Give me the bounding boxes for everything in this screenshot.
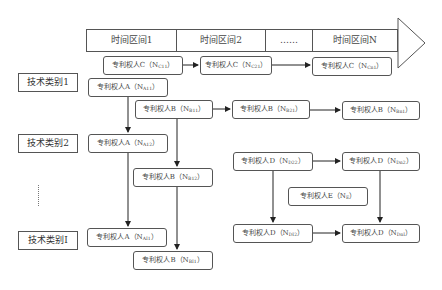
- category-1-label: 技术类别1: [18, 73, 78, 92]
- category-ellipsis: [38, 185, 39, 206]
- timeline-interval-ellipsis: ……: [266, 30, 313, 51]
- node-patentee-c-c11: 专利权人C（NC11）: [103, 56, 183, 75]
- timeline-arrowhead: [398, 18, 425, 68]
- node-patentee-b-b21: 专利权人B（NB21）: [232, 100, 310, 119]
- node-patentee-c-c21: 专利权人C（NC21）: [200, 56, 272, 75]
- node-patentee-b-b12: 专利权人B（NB12）: [133, 168, 213, 187]
- node-patentee-b-bn1: 专利权人B（NBn1）: [342, 101, 420, 120]
- node-patentee-a-ai1: 专利权人A（NAI1）: [87, 228, 167, 247]
- category-i-label: 技术类别I: [18, 231, 78, 250]
- timeline-interval-1: 时间区间1: [87, 30, 177, 51]
- category-2-label: 技术类别2: [18, 134, 78, 153]
- timeline-interval-2: 时间区间2: [177, 30, 266, 51]
- node-patentee-d-d22: 专利权人D（ND22）: [233, 152, 313, 171]
- node-patentee-d-dn2: 专利权人D（NDn2）: [342, 152, 420, 171]
- node-patentee-e: 专利权人E（NE）: [288, 187, 368, 206]
- timeline-interval-n: 时间区间N: [313, 30, 397, 51]
- node-patentee-c-cn1: 专利权人C（NCn1）: [312, 57, 392, 76]
- node-patentee-d-di2: 专利权人D（NDI2）: [233, 224, 313, 243]
- timeline-bar: 时间区间1 时间区间2 …… 时间区间N: [86, 29, 398, 52]
- node-patentee-b-b11: 专利权人B（NB11）: [135, 100, 213, 119]
- node-patentee-b-bi1: 专利权人B（NBI1）: [133, 251, 213, 270]
- node-patentee-d-dni: 专利权人D（NDnI）: [342, 224, 420, 243]
- node-patentee-a-a12: 专利权人A（NA12）: [88, 134, 168, 153]
- node-patentee-a-a11: 专利权人A（NA11）: [88, 78, 168, 97]
